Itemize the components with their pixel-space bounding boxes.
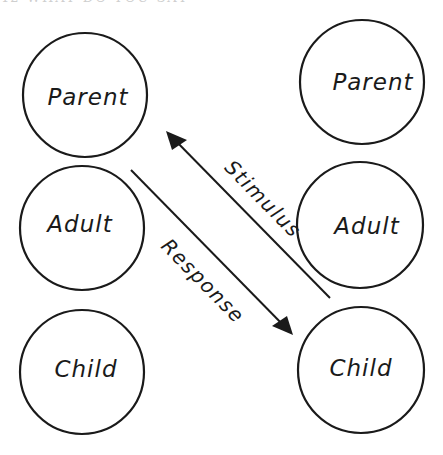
left-adult-state: Adult (20, 166, 144, 290)
left-parent-state: Parent (23, 33, 147, 157)
right-parent-label: Parent (332, 69, 413, 95)
right-child-state: Child (298, 307, 424, 433)
right-parent-state: Parent (300, 20, 424, 144)
right-child-label: Child (329, 355, 392, 381)
left-child-state: Child (20, 310, 144, 434)
right-adult-state: Adult (297, 162, 423, 288)
left-person: Parent Adult Child (20, 33, 147, 434)
stimulus-arrowhead-icon (166, 131, 187, 150)
ego-state-diagram: Parent Adult Child Parent Adult Child St… (0, 0, 443, 455)
response-label: Response (156, 234, 249, 329)
left-child-label: Child (54, 356, 117, 382)
right-adult-label: Adult (332, 213, 399, 239)
response-arrowhead-icon (272, 316, 293, 335)
left-parent-label: Parent (47, 84, 128, 110)
right-person: Parent Adult Child (297, 20, 424, 433)
left-adult-label: Adult (45, 211, 112, 237)
